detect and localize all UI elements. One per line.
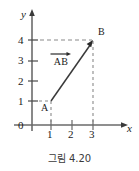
origin-label: 0	[18, 120, 24, 131]
y-tick-label-4: 4	[18, 35, 24, 46]
x-axis	[14, 122, 128, 128]
x-tick-label-1: 1	[47, 129, 53, 140]
point-a-label: A	[41, 103, 48, 113]
x-axis-label: x	[127, 123, 132, 134]
y-axis	[29, 9, 35, 131]
point-b-label: B	[98, 27, 105, 37]
figure-caption: 그림 4.20	[0, 150, 139, 165]
vector-ab-arrow	[51, 40, 93, 101]
y-axis-label: y	[21, 9, 26, 20]
y-tick-label-3: 3	[18, 55, 24, 66]
x-tick-label-2: 2	[68, 129, 74, 140]
y-tick-label-2: 2	[18, 76, 24, 87]
figure-container: 4 3 2 1 0 1 2 3 y x A B AB 그림 4.20	[0, 0, 139, 171]
y-axis-ticks	[28, 40, 38, 101]
vector-ab-label: AB	[50, 51, 72, 67]
vector-ab-text: AB	[54, 57, 68, 67]
x-tick-label-3: 3	[89, 129, 95, 140]
y-tick-label-1: 1	[18, 96, 24, 107]
